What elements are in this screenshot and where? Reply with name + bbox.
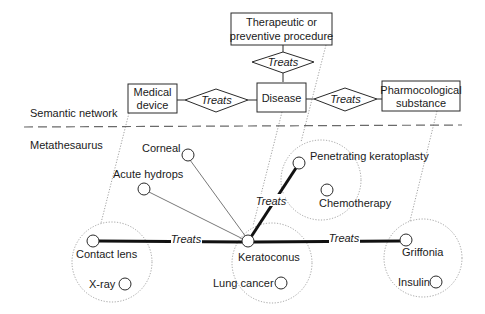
concept-keratoconus[interactable]: Keratoconus — [238, 235, 300, 263]
cluster-diseases — [232, 223, 312, 303]
relation-treats-left-label: Treats — [201, 94, 232, 106]
concept-label-keratoconus: Keratoconus — [238, 251, 300, 263]
concept-node-penetrating-keratoplasty[interactable] — [293, 157, 305, 169]
concept-node-x-ray[interactable] — [119, 278, 131, 290]
concept-lung-cancer[interactable]: Lung cancer — [213, 277, 287, 289]
relation-treats-right: Treats — [314, 88, 377, 111]
concept-label-acute-hydrops: Acute hydrops — [113, 168, 184, 180]
concept-node-acute-hydrops[interactable] — [138, 183, 150, 195]
medical-device-label-line2: device — [137, 99, 169, 111]
concept-node-chemotherapy[interactable] — [321, 184, 333, 196]
edge-griffonia-treats-keratoconus — [254, 241, 400, 242]
concept-node-lung-cancer[interactable] — [275, 277, 287, 289]
concept-label-lung-cancer: Lung cancer — [213, 277, 274, 289]
pharmacological-label-line2: substance — [396, 97, 446, 109]
concept-label-chemotherapy: Chemotherapy — [319, 197, 392, 209]
semantic-network-layer-label: Semantic network — [30, 107, 118, 119]
therapeutic-label-line1: Therapeutic or — [246, 16, 317, 28]
metathesaurus-layer-label: Metathesaurus — [30, 139, 103, 151]
concept-node-keratoconus[interactable] — [242, 235, 254, 247]
concept-griffonia[interactable]: Griffonia — [400, 234, 444, 258]
edge-contact-lens-treats-label: Treats — [171, 233, 202, 245]
concept-label-contact-lens: Contact lens — [76, 248, 138, 260]
concept-label-x-ray: X-ray — [89, 278, 116, 290]
concept-node-insulin[interactable] — [430, 276, 442, 288]
concept-contact-lens[interactable]: Contact lens — [76, 235, 138, 260]
guide-disease-to-cluster — [253, 112, 282, 226]
guide-pharmacological-to-cluster — [410, 111, 437, 221]
edge-corneal-keratoconus — [190, 160, 246, 237]
relation-treats-top-label: Treats — [268, 56, 299, 68]
edge-griffonia-treats-label: Treats — [329, 232, 360, 244]
semantic-type-therapeutic-procedure: Therapeutic or preventive procedure — [230, 13, 333, 45]
relation-treats-top: Treats — [252, 52, 314, 73]
concept-node-contact-lens[interactable] — [87, 235, 99, 247]
concept-label-insulin: Insulin — [398, 276, 430, 288]
concept-corneal[interactable]: Corneal — [142, 142, 194, 161]
semantic-type-disease: Disease — [257, 83, 306, 112]
relation-treats-right-label: Treats — [330, 93, 361, 105]
umls-diagram: Therapeutic or preventive procedure Trea… — [0, 0, 485, 314]
disease-label: Disease — [262, 92, 302, 104]
cluster-medical-devices — [72, 222, 152, 302]
concept-x-ray[interactable]: X-ray — [89, 278, 131, 290]
concept-node-corneal[interactable] — [182, 149, 194, 161]
concept-penetrating-keratoplasty[interactable]: Penetrating keratoplasty — [293, 150, 429, 169]
concept-insulin[interactable]: Insulin — [398, 276, 442, 288]
concept-label-griffonia: Griffonia — [402, 246, 444, 258]
relation-treats-left: Treats — [185, 89, 248, 112]
semantic-type-medical-device: Medical device — [128, 84, 177, 113]
concept-chemotherapy[interactable]: Chemotherapy — [319, 184, 392, 209]
concept-label-corneal: Corneal — [142, 142, 181, 154]
edge-penetrating-treats-label: Treats — [256, 195, 287, 207]
therapeutic-label-line2: preventive procedure — [230, 30, 333, 42]
pharmacological-label-line1: Pharmocological — [380, 84, 461, 96]
medical-device-label-line1: Medical — [134, 86, 172, 98]
concept-node-griffonia[interactable] — [400, 234, 412, 246]
edge-acute-hydrops-keratoconus — [149, 192, 243, 239]
layer-separator — [24, 125, 462, 127]
concept-label-penetrating-keratoplasty: Penetrating keratoplasty — [310, 150, 429, 162]
semantic-type-pharmacological-substance: Pharmocological substance — [380, 81, 461, 111]
concept-acute-hydrops[interactable]: Acute hydrops — [113, 168, 184, 195]
